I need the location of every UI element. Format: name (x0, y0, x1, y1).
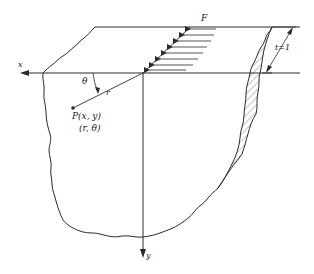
force-distribution (143, 27, 216, 73)
y-axis-label: y (146, 252, 151, 260)
point-polar-label: (r, θ) (79, 124, 100, 133)
angle-arrowhead-icon (95, 87, 100, 94)
angle-label: θ (82, 77, 87, 86)
point-cartesian-label: P(x, y) (72, 112, 101, 121)
dimension-arrowhead-icon (266, 65, 272, 73)
x-axis-arrowhead-icon (20, 70, 29, 76)
plate-break-line-bottom-right (143, 188, 218, 237)
y-axis (140, 73, 146, 258)
point-p-marker (71, 106, 75, 110)
force-label: F (201, 14, 207, 23)
thickness-label: t=1 (275, 44, 290, 52)
x-axis-label: x (18, 61, 23, 69)
hatched-cross-section (218, 27, 272, 188)
plate-break-line-top (43, 27, 95, 73)
angle-theta-arc (93, 73, 100, 94)
plate-diagram: x y F t=1 θ r P(x, y) (r, θ) (0, 0, 314, 274)
dimension-arrowhead-icon (287, 27, 293, 35)
radius-label: r (106, 89, 110, 97)
